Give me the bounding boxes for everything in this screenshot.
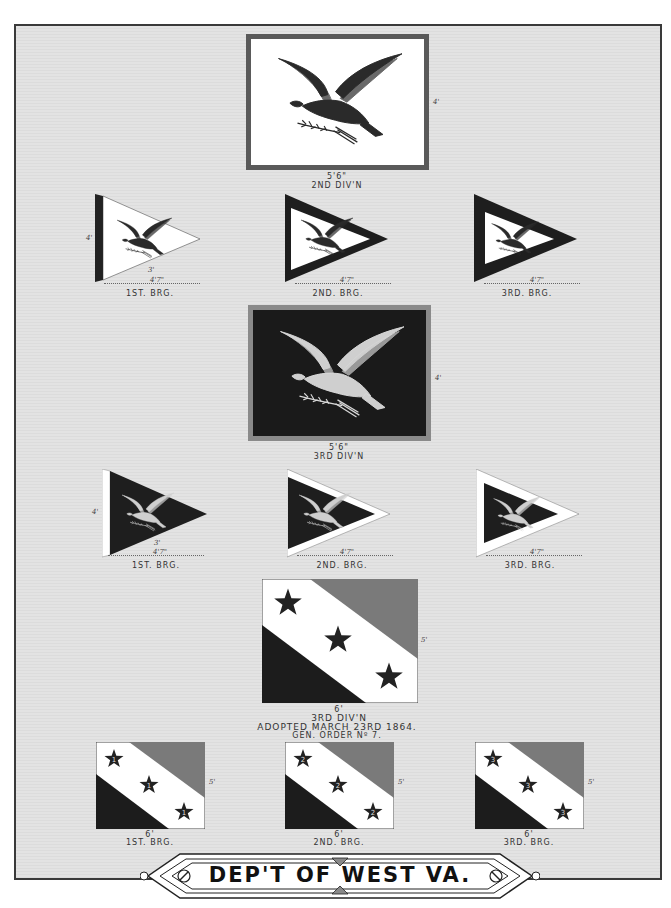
- flag-caption: 3RD. BRG.: [505, 561, 556, 570]
- pennant-2nd-brigade-dark: [287, 469, 397, 559]
- svg-text:3: 3: [491, 756, 495, 764]
- flag-3rd-brigade-stars: 3 3 3: [475, 742, 584, 829]
- height-label: 5': [398, 778, 404, 786]
- flag-caption: 3RD. BRG.: [504, 838, 555, 847]
- svg-text:1: 1: [147, 782, 151, 790]
- side-label: 4': [92, 508, 98, 516]
- flag-caption: 1ST. BRG.: [126, 289, 174, 298]
- flag-caption: 1ST. BRG.: [132, 561, 180, 570]
- length-label: 4'7": [340, 276, 354, 284]
- flag-caption: 2ND. BRG.: [316, 561, 367, 570]
- length-label: 4'7": [530, 276, 544, 284]
- length-label: 4'7": [153, 548, 167, 556]
- height-label: 4': [435, 374, 441, 382]
- svg-text:2: 2: [301, 756, 305, 764]
- height-label: 5': [588, 778, 594, 786]
- height-label: 4': [433, 98, 439, 106]
- flag-3rd-division-stars: [262, 579, 418, 703]
- flag-2nd-brigade-stars: 2 2 2: [285, 742, 394, 829]
- hoist-label: 3': [154, 539, 160, 547]
- width-label: 5'6": [327, 172, 347, 181]
- eagle-icon: [251, 39, 424, 165]
- hoist-label: 3': [148, 266, 154, 274]
- flag-caption: 2ND DIV'N: [312, 181, 363, 190]
- svg-text:1: 1: [182, 809, 186, 817]
- title-banner: DEP'T OF WEST VA.: [140, 848, 540, 904]
- svg-text:2: 2: [336, 782, 340, 790]
- pennant-3rd-brigade-dark: [476, 469, 586, 559]
- flag-caption: 2ND. BRG.: [313, 838, 364, 847]
- flag-caption: 3RD. BRG.: [502, 289, 553, 298]
- page-title: DEP'T OF WEST VA.: [140, 863, 540, 887]
- flag-2nd-division-eagle: [246, 34, 429, 170]
- flag-1st-brigade-stars: 1 1 1: [96, 742, 205, 829]
- width-label: 5'6": [329, 443, 349, 452]
- eagle-icon: [253, 310, 426, 436]
- pennant-2nd-brigade-white: [285, 194, 395, 284]
- flag-caption: 2ND. BRG.: [312, 289, 363, 298]
- svg-text:2: 2: [371, 809, 375, 817]
- svg-text:1: 1: [112, 756, 116, 764]
- length-label: 4'7": [530, 548, 544, 556]
- length-label: 4'7": [340, 548, 354, 556]
- height-label: 5': [209, 778, 215, 786]
- length-label: 4'7": [150, 276, 164, 284]
- side-label: 4': [86, 234, 92, 242]
- pennant-3rd-brigade-white: [474, 194, 584, 284]
- flag-caption: 1ST. BRG.: [126, 838, 174, 847]
- height-label: 5': [421, 636, 427, 644]
- svg-text:3: 3: [561, 809, 565, 817]
- general-order: GEN. ORDER Nº 7.: [292, 731, 381, 740]
- svg-text:3: 3: [526, 782, 530, 790]
- flag-3rd-division-eagle: [248, 305, 431, 441]
- flag-caption: 3RD DIV'N: [314, 452, 365, 461]
